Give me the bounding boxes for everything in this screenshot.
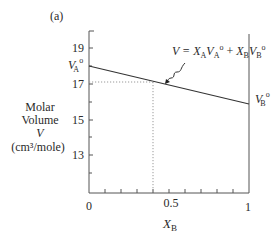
x-tick-label: 0 [86, 199, 92, 213]
series-line [89, 66, 249, 104]
svg-text:Volume: Volume [21, 113, 58, 127]
panel-label: (a) [50, 9, 63, 23]
arrow-head-icon [165, 79, 170, 84]
y-tick-label: 13 [72, 148, 84, 162]
y-tick-label: 17 [72, 77, 84, 91]
svg-text:(cm³/mole): (cm³/mole) [11, 140, 65, 154]
va-label: VAo [68, 56, 83, 74]
arrow-icon [166, 63, 185, 83]
svg-text:Molar: Molar [25, 100, 54, 114]
x-ticks [105, 189, 233, 193]
vb-label: VBo [255, 90, 270, 108]
y-tick-label: 15 [72, 113, 84, 127]
equation-label: V = XAVAo + XBVBo [172, 43, 266, 60]
y-tick-label: 19 [72, 41, 84, 55]
x-axis-label: XB [162, 216, 177, 233]
x-tick-label: 0.5 [164, 196, 179, 210]
svg-text:V: V [36, 126, 45, 140]
y-axis-label: Molar Volume V (cm³/mole) [11, 100, 65, 154]
chart-figure: (a) 19 17 15 13 0 0.5 1 XB Molar [0, 0, 279, 243]
x-tick-label: 1 [245, 200, 251, 214]
